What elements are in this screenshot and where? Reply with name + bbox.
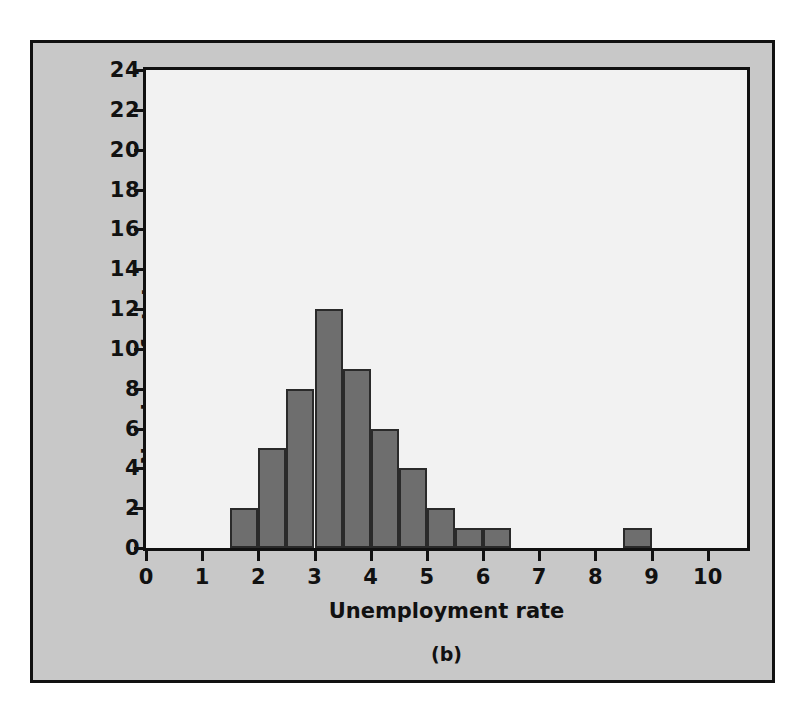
x-axis-tick: [482, 548, 485, 561]
histogram-bar: [315, 309, 343, 548]
x-axis-tick-label: 9: [644, 565, 659, 589]
histogram-bar: [230, 508, 258, 548]
y-axis-tick-label: 18: [110, 178, 140, 202]
x-axis-tick-label: 1: [195, 565, 210, 589]
y-axis-tick-label: 8: [125, 377, 140, 401]
histogram-bar: [343, 369, 371, 548]
x-axis-tick-label: 8: [588, 565, 603, 589]
x-axis-tick: [707, 548, 710, 561]
x-axis-tick: [370, 548, 373, 561]
histogram-bar: [483, 528, 511, 548]
x-axis-tick: [426, 548, 429, 561]
y-axis-tick-label: 0: [125, 536, 140, 560]
figure-panel: Number of states 024681012141618202224 0…: [30, 40, 775, 683]
x-axis-tick: [257, 548, 260, 561]
plot-inner: 024681012141618202224 012345678910: [146, 70, 747, 548]
y-axis-tick-label: 6: [125, 417, 140, 441]
figure-screenshot: Number of states 024681012141618202224 0…: [0, 0, 805, 716]
x-axis-tick-label: 0: [139, 565, 154, 589]
y-axis-tick-label: 4: [125, 456, 140, 480]
x-axis-tick-label: 10: [693, 565, 722, 589]
x-axis-tick: [651, 548, 654, 561]
histogram-bar: [399, 468, 427, 548]
x-axis-tick: [201, 548, 204, 561]
plot-area: 024681012141618202224 012345678910: [143, 67, 750, 551]
x-axis-tick-label: 2: [251, 565, 266, 589]
x-axis-title: Unemployment rate: [143, 599, 750, 623]
x-axis-tick-label: 3: [307, 565, 322, 589]
x-axis-tick-label: 4: [363, 565, 378, 589]
y-axis-tick-label: 24: [110, 58, 140, 82]
y-axis-tick-label: 16: [110, 217, 140, 241]
x-axis-tick-label: 6: [476, 565, 491, 589]
histogram-bar: [623, 528, 651, 548]
y-axis-tick-label: 10: [110, 337, 140, 361]
histogram-bar: [371, 429, 399, 549]
x-axis-tick-label: 5: [420, 565, 435, 589]
histogram-bar: [455, 528, 483, 548]
x-axis-tick: [594, 548, 597, 561]
panel-caption: (b): [143, 643, 750, 665]
y-axis-tick-label: 12: [110, 297, 140, 321]
histogram-bar: [427, 508, 455, 548]
y-axis-tick-label: 22: [110, 98, 140, 122]
histogram-bar: [258, 448, 286, 548]
x-axis-tick: [314, 548, 317, 561]
y-axis-tick-label: 14: [110, 257, 140, 281]
y-axis-tick-label: 20: [110, 138, 140, 162]
x-axis-tick: [145, 548, 148, 561]
x-axis-tick: [538, 548, 541, 561]
y-axis-tick-label: 2: [125, 496, 140, 520]
histogram-bar: [286, 389, 314, 548]
x-axis-tick-label: 7: [532, 565, 547, 589]
